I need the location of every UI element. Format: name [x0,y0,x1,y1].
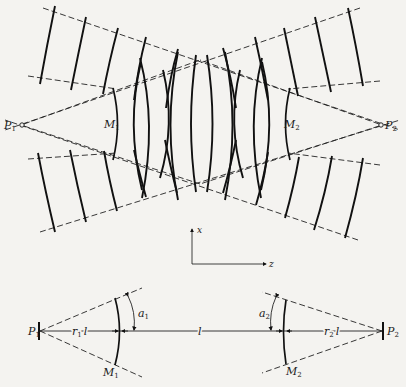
ray-p2-lower [262,331,382,373]
coordinate-axes: x z [192,225,274,269]
bottom-diagram: P1 P2 M1 M2 a1 a2 r1l r2l l [27,288,399,380]
wavefront [234,70,243,178]
wavefront [285,157,299,218]
wavefront [254,58,262,198]
label-r2l: r2l [324,325,340,339]
wavefront [103,28,118,94]
beam-edge-top-left-outer [43,8,400,130]
angle-a1-arc [128,296,134,330]
wavefront [70,150,86,222]
label-a2: a2 [259,307,270,321]
ray-p2-upper [262,292,382,331]
label-a1: a1 [138,307,149,321]
label-m2: M2 [285,365,302,379]
label-m1: M1 [102,366,119,380]
wavefront [348,8,363,86]
mirror-m2 [284,300,287,364]
angle-a2-arc [271,297,276,330]
wavefront [134,62,142,190]
wavefront [104,151,117,211]
ray-p1-lower [40,331,142,377]
wavefront [71,17,86,90]
label-p2: P2 [386,325,399,339]
label-l: l [198,325,202,338]
wavefront [225,52,233,200]
wavefront [315,17,331,92]
resonator-diagram: P1 P2 M1 M2 x z P1 [0,0,406,387]
label-r1l: r1l [72,325,88,339]
top-diagram: P1 P2 M1 M2 [3,6,400,240]
wavefront [345,158,363,238]
ray-p1-upper [40,288,142,331]
p2-source-icon [379,123,383,127]
x-axis-label: x [197,225,202,235]
beam-edge-top-right-inner [288,81,380,89]
wavefront [40,6,55,84]
wavefront [160,70,169,178]
wavefront [261,62,269,190]
label-p1: P1 [27,325,40,339]
wavefront [191,55,196,192]
beam-edge-bottom-left-outer [40,120,400,232]
z-axis-label: z [268,259,274,269]
p1-source-icon [20,123,24,127]
wavefront [207,55,213,192]
wavefront [314,156,332,230]
wavefront [38,153,55,232]
wavefront [284,28,298,96]
beam-edge-bottom-right-inner [288,153,380,165]
beam-edge-bottom-right-outer [5,120,358,240]
mirror-m1 [115,298,120,365]
label-p1: P1 [3,119,16,133]
label-p2: P2 [384,119,397,133]
label-m2: M2 [283,118,300,132]
